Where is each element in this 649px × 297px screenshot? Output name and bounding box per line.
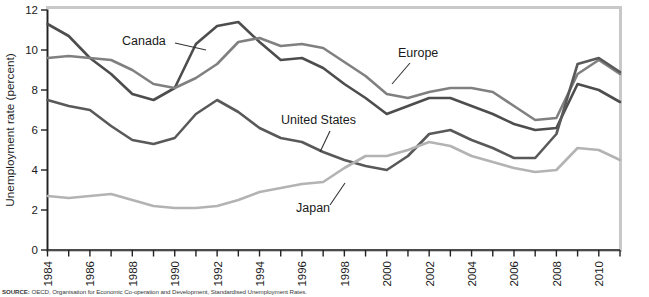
source-note-label: SOURCE: (2, 288, 30, 295)
annotation-label-japan: Japan (296, 201, 330, 215)
y-tick-label: 4 (32, 164, 39, 176)
source-note: SOURCE: OECD, Organisation for Economic … (2, 288, 307, 295)
y-tick-label: 10 (25, 44, 38, 56)
x-tick-label: 2002 (424, 261, 436, 287)
x-tick-label: 2010 (593, 261, 605, 287)
x-tick-label: 2008 (551, 261, 563, 287)
x-tick-label: 1986 (84, 261, 96, 287)
x-tick-label: 1998 (339, 261, 351, 287)
y-tick-label: 8 (32, 84, 38, 96)
y-tick-label: 6 (32, 124, 38, 136)
y-axis-title: Unemployment rate (percent) (3, 53, 17, 206)
y-tick-label: 0 (32, 244, 38, 256)
x-tick-label: 1984 (42, 260, 54, 286)
annotation-label-europe: Europe (398, 46, 438, 60)
unemployment-rate-line-chart: 0 2 4 6 8 10 12 Unemployment rate (perce… (0, 0, 649, 297)
y-tick-label: 2 (32, 204, 38, 216)
x-tick-label: 2000 (381, 261, 393, 287)
figure-container: 0 2 4 6 8 10 12 Unemployment rate (perce… (0, 0, 649, 297)
y-axis-tick-labels: 0 2 4 6 8 10 12 (25, 4, 38, 256)
y-tick-label: 12 (25, 4, 38, 16)
x-tick-label: 1996 (296, 261, 308, 287)
x-tick-label: 1992 (212, 261, 224, 287)
x-axis-tick-labels: 1984198619881990199219941996199820002002… (42, 260, 605, 286)
x-tick-label: 1994 (254, 260, 266, 286)
annotation-label-united-states: United States (281, 113, 356, 127)
x-tick-label: 2004 (466, 260, 478, 286)
x-tick-label: 1990 (169, 261, 181, 287)
x-tick-label: 1988 (127, 261, 139, 287)
annotation-label-canada: Canada (122, 34, 166, 48)
source-note-text: OECD, Organisation for Economic Co-opera… (31, 288, 306, 295)
x-tick-label: 2006 (508, 261, 520, 287)
